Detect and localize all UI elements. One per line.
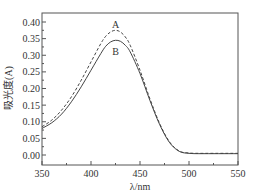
y-tick-label: 0.40 <box>23 17 41 28</box>
y-tick-label: 0.25 <box>23 66 41 77</box>
x-tick-label: 450 <box>133 168 148 179</box>
absorbance-chart: 0.000.050.100.150.200.250.300.350.40 350… <box>0 0 253 195</box>
y-axis-label: 吸光度(A) <box>2 66 15 110</box>
y-tick-label: 0.35 <box>23 33 41 44</box>
y-tick-label: 0.05 <box>23 133 41 144</box>
x-tick-label: 550 <box>231 168 246 179</box>
y-tick-label: 0.15 <box>23 100 41 111</box>
x-tick-label: 350 <box>35 168 50 179</box>
x-axis-ticks: 350400450500550 <box>35 161 246 179</box>
y-tick-label: 0.10 <box>23 116 41 127</box>
series-annotations: AB <box>112 19 120 57</box>
x-tick-label: 500 <box>182 168 197 179</box>
x-tick-label: 400 <box>84 168 99 179</box>
series-label-a: A <box>112 19 120 30</box>
data-series <box>42 30 238 153</box>
y-tick-label: 0.00 <box>23 150 41 161</box>
series-label-b: B <box>112 46 119 57</box>
y-tick-label: 0.20 <box>23 83 41 94</box>
y-tick-label: 0.30 <box>23 50 41 61</box>
x-axis-label: λ/nm <box>130 181 151 192</box>
series-a-line <box>42 30 238 153</box>
plot-frame <box>42 13 238 165</box>
